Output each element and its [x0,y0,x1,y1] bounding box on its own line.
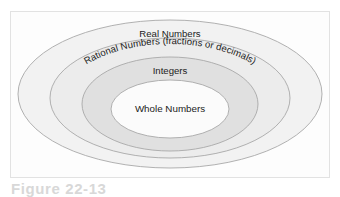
figure-root: Real Numbers Rational Numbers (fractions… [0,0,340,197]
venn-label-integers: Integers [153,65,188,76]
diagram-frame: Real Numbers Rational Numbers (fractions… [10,11,330,178]
venn-label-whole: Whole Numbers [135,103,205,114]
figure-caption: Figure 22-13 [11,181,191,197]
number-sets-venn-diagram: Real Numbers Rational Numbers (fractions… [11,12,329,177]
